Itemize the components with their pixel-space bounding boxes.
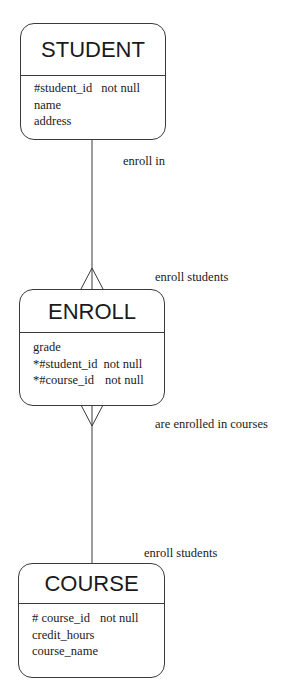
attribute-row: address [34, 113, 165, 130]
entity-title: STUDENT [21, 24, 165, 76]
er-diagram-canvas: STUDENT #student_idnot null name address… [0, 0, 295, 693]
relationship-label-enroll-students: enroll students [144, 546, 217, 561]
attribute-row: *#course_idnot null [33, 372, 164, 389]
attribute-name: grade [33, 340, 61, 354]
attribute-list: grade *#student_idnot null *#course_idno… [20, 333, 164, 389]
attribute-row: *#student_idnot null [33, 356, 164, 373]
entity-course[interactable]: COURSE # course_idnot null credit_hours … [18, 563, 165, 678]
relationship-label-enroll-in: enroll in [123, 154, 165, 169]
attribute-constraint: not null [101, 81, 140, 95]
entity-student[interactable]: STUDENT #student_idnot null name address [20, 23, 166, 140]
attribute-name: credit_hours [32, 628, 94, 642]
attribute-name: name [34, 98, 61, 112]
entity-title: ENROLL [20, 290, 164, 333]
relationship-label-enroll-students: enroll students [155, 270, 228, 285]
entity-enroll[interactable]: ENROLL grade *#student_idnot null *#cour… [19, 289, 165, 406]
attribute-row: name [34, 97, 165, 114]
attribute-name: # course_id [32, 611, 90, 625]
attribute-row: # course_idnot null [32, 610, 164, 627]
relationship-label-are-enrolled-in-courses: are enrolled in courses [155, 417, 268, 432]
attribute-row: grade [33, 339, 164, 356]
entity-title: COURSE [19, 564, 164, 604]
attribute-constraint: not null [100, 611, 139, 625]
attribute-name: *#student_id [33, 357, 98, 371]
attribute-row: #student_idnot null [34, 80, 165, 97]
attribute-list: #student_idnot null name address [21, 76, 165, 130]
attribute-name: course_name [32, 644, 98, 658]
attribute-list: # course_idnot null credit_hours course_… [19, 604, 164, 660]
attribute-constraint: not null [105, 373, 144, 387]
attribute-name: *#course_id [33, 373, 94, 387]
attribute-name: #student_id [34, 81, 92, 95]
attribute-constraint: not null [104, 357, 143, 371]
attribute-row: credit_hours [32, 627, 164, 644]
attribute-row: course_name [32, 643, 164, 660]
attribute-name: address [34, 114, 72, 128]
